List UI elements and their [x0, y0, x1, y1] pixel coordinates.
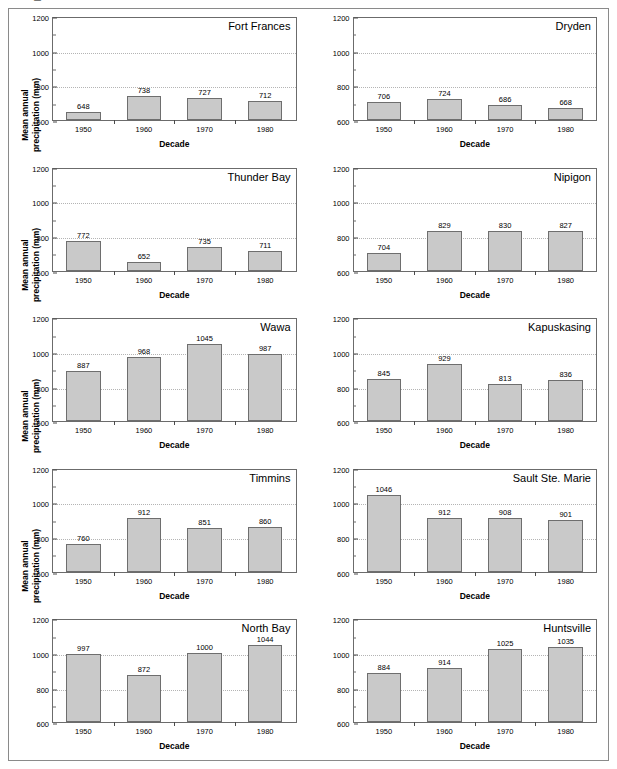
- bar[interactable]: [488, 649, 523, 723]
- bar[interactable]: [427, 518, 462, 572]
- x-tick-label: 1970: [497, 276, 514, 285]
- x-tick-label: 1950: [375, 727, 392, 736]
- x-tick: [174, 421, 175, 425]
- x-tick-label: 1960: [136, 577, 153, 586]
- bar-slot: 706: [354, 18, 415, 120]
- y-tick-label: 600: [337, 118, 350, 127]
- bar[interactable]: [367, 495, 402, 572]
- bar-value-label: 648: [77, 102, 90, 111]
- bar[interactable]: [548, 231, 583, 270]
- bar[interactable]: [488, 384, 523, 421]
- bar[interactable]: [127, 262, 162, 271]
- bar[interactable]: [488, 105, 523, 120]
- bar[interactable]: [367, 253, 402, 271]
- bar[interactable]: [427, 668, 462, 722]
- bar-slot: 668: [535, 18, 596, 120]
- x-tick-label: 1950: [75, 727, 92, 736]
- y-tick-label: 800: [36, 685, 49, 694]
- bar[interactable]: [248, 101, 283, 120]
- y-tick-major: [354, 122, 358, 123]
- panel-title: Wawa: [260, 321, 290, 333]
- bar-value-label: 1035: [557, 637, 574, 646]
- x-tick: [535, 421, 536, 425]
- x-axis-title: Decade: [52, 591, 297, 601]
- x-tick-label: 1980: [557, 727, 574, 736]
- bar-slot: 851: [174, 470, 235, 572]
- y-tick-label: 1200: [333, 616, 350, 625]
- bar-slot: 830: [475, 169, 536, 271]
- y-tick-major: [53, 573, 57, 574]
- x-tick-label: 1980: [557, 426, 574, 435]
- bar-slot: 901: [535, 470, 596, 572]
- bar[interactable]: [248, 251, 283, 270]
- bar-slot: 860: [235, 470, 296, 572]
- bar[interactable]: [127, 96, 162, 120]
- bar[interactable]: [548, 108, 583, 120]
- bar[interactable]: [488, 231, 523, 271]
- x-axis-title: Decade: [52, 440, 297, 450]
- x-tick: [174, 572, 175, 576]
- x-tick: [414, 120, 415, 124]
- bar[interactable]: [66, 371, 101, 421]
- bar[interactable]: [548, 647, 583, 722]
- bar[interactable]: [548, 520, 583, 572]
- bar[interactable]: [367, 102, 402, 120]
- plot-area: 6008001000120070672468666819501960197019…: [353, 17, 598, 121]
- bar[interactable]: [127, 357, 162, 421]
- y-axis-title: Mean annual precipitation (mm): [18, 618, 40, 722]
- bar[interactable]: [248, 354, 283, 421]
- y-tick-major: [53, 122, 57, 123]
- panel-title: Huntsville: [543, 622, 591, 634]
- bar[interactable]: [66, 654, 101, 723]
- x-tick: [235, 722, 236, 726]
- y-axis-title-text: Mean annual precipitation (mm): [20, 364, 42, 468]
- bar-slot: 1046: [354, 470, 415, 572]
- bar[interactable]: [248, 527, 283, 572]
- y-tick-major: [354, 423, 358, 424]
- bar-slot: 724: [414, 18, 475, 120]
- bar[interactable]: [66, 112, 101, 120]
- y-tick-label: 600: [337, 419, 350, 428]
- panel-title: Timmins: [249, 472, 290, 484]
- x-tick-label: 1960: [136, 727, 153, 736]
- bar[interactable]: [187, 344, 222, 421]
- bar[interactable]: [488, 518, 523, 571]
- bar-value-label: 968: [138, 347, 151, 356]
- bar[interactable]: [427, 364, 462, 421]
- bar-value-label: 827: [559, 221, 572, 230]
- bar[interactable]: [127, 675, 162, 722]
- bar[interactable]: [187, 247, 222, 270]
- bar[interactable]: [187, 528, 222, 572]
- x-tick-label: 1970: [196, 125, 213, 134]
- x-axis-title: Decade: [353, 591, 598, 601]
- bar[interactable]: [127, 518, 162, 572]
- bar[interactable]: [427, 231, 462, 271]
- bar[interactable]: [66, 544, 101, 572]
- bar-value-label: 912: [138, 508, 151, 517]
- bar[interactable]: [367, 673, 402, 722]
- bar-value-label: 735: [198, 237, 211, 246]
- panel-title: Sault Ste. Marie: [513, 472, 591, 484]
- bar[interactable]: [367, 379, 402, 421]
- bar-value-label: 1044: [257, 635, 274, 644]
- x-tick-label: 1980: [257, 125, 274, 134]
- bar[interactable]: [187, 653, 222, 722]
- y-tick-label: 600: [337, 268, 350, 277]
- bar-slot: 872: [114, 620, 175, 722]
- bar[interactable]: [248, 645, 283, 722]
- bar-value-label: 760: [77, 534, 90, 543]
- x-tick-label: 1980: [257, 426, 274, 435]
- bar[interactable]: [427, 99, 462, 120]
- y-tick-label: 1000: [333, 349, 350, 358]
- bar-value-label: 706: [378, 92, 391, 101]
- x-tick: [475, 421, 476, 425]
- x-tick-label: 1950: [75, 577, 92, 586]
- x-tick-label: 1950: [75, 426, 92, 435]
- chart-panel: 6008001000120084592981383619501960197019…: [309, 309, 610, 460]
- bar[interactable]: [66, 241, 101, 271]
- bar[interactable]: [187, 98, 222, 120]
- bar-slot: 914: [414, 620, 475, 722]
- chart-panel: Mean annual precipitation (mm)6008001000…: [8, 460, 309, 611]
- bar[interactable]: [548, 380, 583, 421]
- bar-value-label: 997: [77, 644, 90, 653]
